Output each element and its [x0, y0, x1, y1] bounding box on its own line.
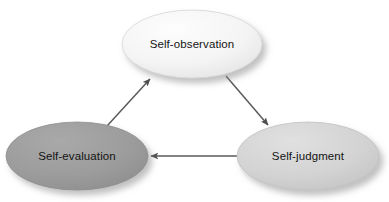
node-self-evaluation-label: Self-evaluation	[38, 150, 116, 162]
node-self-evaluation[interactable]: Self-evaluation	[6, 122, 148, 190]
node-self-judgment-label: Self-judgment	[272, 150, 345, 162]
node-self-observation-label: Self-observation	[150, 38, 235, 50]
edge-observation-to-judgment	[226, 76, 268, 125]
edge-evaluation-to-observation	[107, 79, 150, 126]
diagram-canvas: Self-observation Self-evaluation Self-ju…	[0, 0, 389, 202]
self-regulation-cycle-diagram: Self-observation Self-evaluation Self-ju…	[0, 0, 389, 202]
node-self-observation[interactable]: Self-observation	[122, 10, 262, 78]
node-self-judgment[interactable]: Self-judgment	[237, 122, 379, 190]
